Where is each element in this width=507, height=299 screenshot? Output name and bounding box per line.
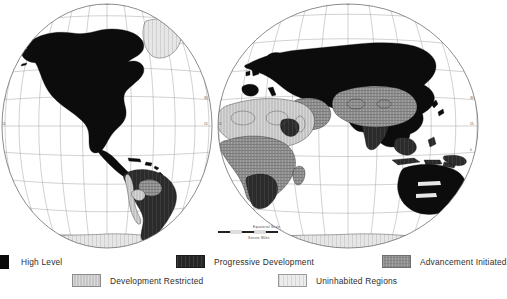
world-map-figure: 160150 140130 120110 10090 80 160150 140…: [0, 0, 491, 253]
scale-bar-units: Statute Miles: [248, 236, 270, 240]
map-legend: High Level Progressive Development Advan…: [0, 253, 491, 299]
svg-text:15: 15: [218, 122, 222, 126]
svg-text:0: 0: [470, 148, 472, 152]
svg-text:15: 15: [204, 122, 208, 126]
legend-item-development-restricted[interactable]: Development Restricted: [72, 274, 203, 287]
legend-swatch-advancement-initiated: [382, 255, 411, 268]
svg-text:30: 30: [470, 96, 474, 100]
legend-swatch-development-restricted: [72, 274, 101, 287]
legend-swatch-progressive-development: [176, 255, 205, 268]
legend-label-development-restricted: Development Restricted: [110, 276, 203, 286]
legend-swatch-uninhabited-regions: [278, 274, 307, 287]
legend-label-uninhabited-regions: Uninhabited Regions: [316, 276, 397, 286]
scale-bar-title: Equatorial Scale: [253, 225, 280, 229]
legend-item-progressive-development[interactable]: Progressive Development: [176, 255, 314, 268]
svg-text:15: 15: [2, 122, 6, 126]
legend-label-progressive-development: Progressive Development: [214, 257, 314, 267]
legend-label-high-level: High Level: [21, 257, 62, 267]
legend-item-advancement-initiated[interactable]: Advancement Initiated: [382, 255, 507, 268]
legend-item-high-level[interactable]: High Level: [0, 255, 62, 269]
legend-label-advancement-initiated: Advancement Initiated: [420, 257, 507, 267]
legend-item-uninhabited-regions[interactable]: Uninhabited Regions: [278, 274, 397, 287]
legend-swatch-high-level: [0, 255, 9, 269]
svg-text:30: 30: [204, 96, 208, 100]
svg-text:15: 15: [470, 122, 474, 126]
